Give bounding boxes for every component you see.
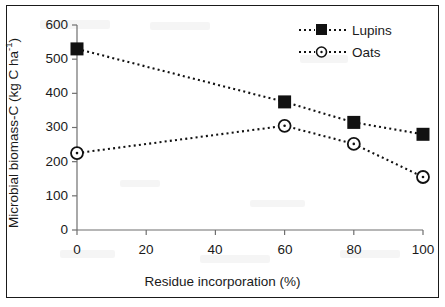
series-line-lupins bbox=[77, 49, 423, 134]
data-point-lupins-0 bbox=[71, 42, 84, 55]
figure-container: Microbial biomass-C (kg C ha-1) 600 500 … bbox=[0, 0, 445, 307]
series-line-oats bbox=[77, 126, 423, 177]
data-point-lupins-100 bbox=[417, 128, 430, 141]
data-point-center-oats-80 bbox=[353, 143, 356, 146]
data-point-center-oats-100 bbox=[422, 176, 425, 179]
data-point-lupins-80 bbox=[347, 116, 360, 129]
data-point-center-oats-0 bbox=[76, 152, 79, 155]
data-point-lupins-60 bbox=[278, 95, 291, 108]
plot-area bbox=[0, 0, 445, 307]
data-point-center-oats-60 bbox=[283, 125, 286, 128]
